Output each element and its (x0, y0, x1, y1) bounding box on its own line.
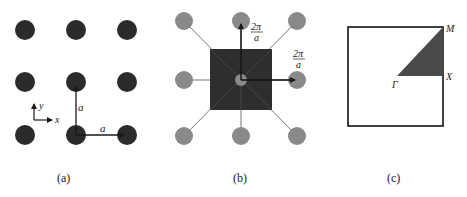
first-brillouin-zone (348, 27, 443, 126)
panel-a-real-lattice: a a y x (a) (15, 20, 137, 185)
lattice-vector-y-label: a (78, 101, 84, 113)
svg-text:a: a (254, 32, 259, 43)
axis-y-label: y (38, 100, 44, 111)
point-gamma-label: Γ (391, 79, 398, 90)
figure: a a y x (a) 2π (0, 0, 467, 197)
panel-b-reciprocal-lattice: 2π a 2π a (b) (175, 12, 306, 185)
caption-c: (c) (387, 171, 400, 185)
svg-text:2π: 2π (251, 21, 262, 32)
caption-b: (b) (233, 171, 247, 185)
svg-text:2π: 2π (293, 48, 304, 59)
point-m-label: M (445, 23, 455, 34)
irreducible-wedge (397, 27, 443, 76)
lattice-vector-x-label: a (100, 122, 106, 134)
axis-x-label: x (54, 114, 60, 125)
svg-text:a: a (296, 59, 301, 70)
axes-icon: y x (34, 100, 60, 125)
label-up: 2π a (251, 21, 263, 43)
point-x-label: X (445, 71, 453, 82)
caption-a: (a) (57, 171, 70, 185)
label-right: 2π a (293, 48, 305, 70)
panel-c-brillouin-zone: M X Γ (c) (348, 23, 455, 185)
